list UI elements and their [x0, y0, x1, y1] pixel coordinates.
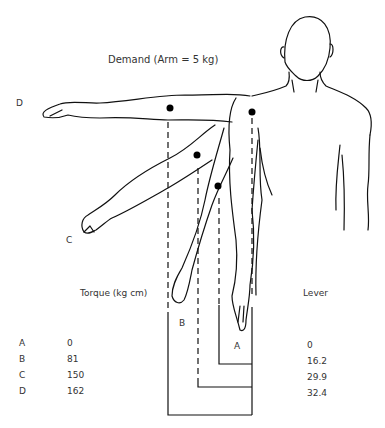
row-label: C: [19, 370, 25, 380]
torque-value: 162: [67, 386, 84, 396]
com-dot-b: [215, 183, 222, 190]
row-label: D: [19, 386, 26, 396]
arm-d: [43, 94, 250, 122]
lever-value: 16.2: [307, 356, 327, 366]
bracket-c: [198, 384, 252, 387]
arm-b: [172, 128, 233, 303]
torque-value: 150: [67, 370, 84, 380]
head-outline: [285, 17, 331, 81]
left-ear: [281, 47, 284, 58]
torso-right: [367, 135, 370, 230]
lever-value: 32.4: [307, 388, 327, 398]
lever-value: 0: [307, 340, 313, 350]
bracket-d: [168, 318, 252, 415]
position-label-a: A: [234, 341, 240, 351]
position-label-c: C: [66, 235, 72, 245]
neck-right: [320, 72, 371, 135]
torque-header: Torque (kg cm): [80, 288, 147, 298]
row-label: A: [19, 338, 25, 348]
diagram-title: Demand (Arm = 5 kg): [108, 54, 218, 65]
arm-a: [229, 98, 258, 331]
row-label: B: [19, 354, 25, 364]
lever-value: 29.9: [307, 372, 327, 382]
com-dot-c: [194, 152, 201, 159]
position-label-d: D: [16, 98, 23, 108]
com-dot-d: [167, 105, 174, 112]
position-label-b: B: [179, 318, 185, 328]
com-dot-a: [249, 109, 256, 116]
arm-c: [82, 125, 215, 233]
torque-value: 81: [67, 354, 78, 364]
lever-header: Lever: [303, 288, 328, 298]
torque-value: 0: [67, 338, 73, 348]
neck-left: [252, 72, 289, 96]
